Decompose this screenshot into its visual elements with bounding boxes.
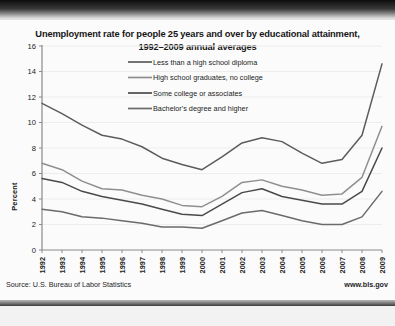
y-axis-tick-label: 16 <box>28 42 36 51</box>
x-axis-tick-label: 1994 <box>78 256 87 273</box>
legend-label-3: Bachelor's degree and higher <box>153 104 249 113</box>
legend-label-2: Some college or associates <box>153 89 243 98</box>
x-axis-tick-label: 2009 <box>378 257 387 273</box>
y-axis-tick-label: 8 <box>32 144 36 153</box>
y-axis-tick-label: 0 <box>32 246 36 255</box>
chart-card: Unemployment rate for people 25 years an… <box>0 20 395 306</box>
source-text: Source: U.S. Bureau of Labor Statistics <box>6 280 131 289</box>
y-axis-tick-label: 6 <box>32 169 36 178</box>
screenshot-root: Unemployment rate for people 25 years an… <box>0 0 395 326</box>
x-axis-tick-label: 2008 <box>358 257 367 273</box>
x-axis-tick-label: 2005 <box>298 257 307 273</box>
x-axis-tick-label: 2007 <box>338 257 347 273</box>
y-axis-tick-label: 10 <box>28 118 36 127</box>
bottom-bar <box>0 300 395 306</box>
y-axis-tick-label: 12 <box>28 93 36 102</box>
x-axis-tick-label: 1995 <box>98 257 107 273</box>
legend-label-0: Less than a high school diploma <box>153 58 258 67</box>
x-axis-tick-label: 1998 <box>158 257 167 273</box>
x-axis-tick-label: 2004 <box>278 256 287 273</box>
line-chart-svg: 0246810121416199219931994199519961997199… <box>0 40 395 306</box>
x-axis-tick-label: 1997 <box>138 257 147 273</box>
x-axis-tick-label: 1993 <box>58 257 67 273</box>
legend-label-1: High school graduates, no college <box>153 73 263 82</box>
chart-title-line1: Unemployment rate for people 25 years an… <box>35 29 359 39</box>
y-axis-tick-label: 4 <box>32 195 36 204</box>
y-axis-tick-label: 14 <box>28 67 36 76</box>
website-text[interactable]: www.bls.gov <box>344 280 388 289</box>
x-axis-tick-label: 1992 <box>38 257 47 273</box>
x-axis-tick-label: 2006 <box>318 257 327 273</box>
y-axis-tick-label: 2 <box>32 220 36 229</box>
x-axis-tick-label: 1996 <box>118 257 127 273</box>
chart-footer: Source: U.S. Bureau of Labor Statistics … <box>0 280 395 300</box>
x-axis-tick-label: 2003 <box>258 257 267 273</box>
x-axis-tick-label: 2001 <box>218 257 227 273</box>
plot-area: Percent 02468101214161992199319941995199… <box>0 40 395 306</box>
series-line-2 <box>42 148 382 216</box>
x-axis-tick-label: 2000 <box>198 257 207 273</box>
x-axis-tick-label: 1999 <box>178 257 187 273</box>
x-axis-tick-label: 2002 <box>238 257 247 273</box>
